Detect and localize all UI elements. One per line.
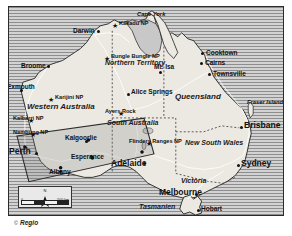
label-nambung-np: Nambung NP [13,130,48,136]
label-western-australia: Western Australia [27,103,95,112]
label-kakadu-np: Kakadu NP [119,21,149,27]
label-melbourne: Melbourne [159,188,202,197]
label-perth: Perth [9,147,31,156]
publisher-mark: Regio [20,219,38,226]
label-queensland: Queensland [175,93,221,101]
label-victoria: Victoria [181,177,206,184]
label-broome: Broome [21,63,46,70]
label-fraser-island: Fraser Island [247,99,283,105]
north-label: N [40,188,50,193]
label-cairns: Cairns [205,60,225,67]
label-kalbarri-np: Kalbarri NP [13,116,43,122]
label-cape-york: Cape York [137,12,165,18]
label-mt-isa: Mt. Isa [154,64,174,71]
copyright-symbol: © [14,220,18,226]
label-esperance: Esperance [71,154,104,161]
label-karijini-np: Karijini NP [55,95,83,101]
label-cooktown: Cooktown [206,50,237,57]
tasmania-shape [180,195,202,215]
label-ayers-rock: Ayers Rock [105,109,136,115]
map-frame: Cape York Fraser Island Northern Territo… [8,6,284,216]
label-townsville: Townsville [213,71,246,78]
label-kalgoorlie: Kalgoorlie [65,135,97,142]
label-tasmanien: Tasmanien [139,203,175,210]
scale-bar-graphic [21,200,69,205]
australia-map: Cape York Fraser Island Northern Territo… [0,0,292,236]
label-south-australia: South Australia [107,119,158,126]
label-adelaide: Adelaide [111,159,146,168]
label-hobart: Hobart [201,206,222,213]
label-darwin: Darwin [73,28,95,35]
label-albany: Albany [49,169,71,176]
lake-eyre-shape [143,128,153,134]
label-exmouth: Exmouth [8,84,35,91]
label-brisbane: Brisbane [244,121,280,130]
scale-bar-box: N 0 500 km [18,186,72,208]
copyright-notice: © Regio [14,219,38,226]
label-sydney: Sydney [241,159,271,168]
label-new-south-wales: New South Wales [185,139,243,146]
label-flinders-ranges-np: Flinders Ranges NP [129,139,182,145]
label-alice-springs: Alice Springs [131,89,173,96]
label-bungle-bungle-np: Bungle Bungle NP [111,54,160,60]
